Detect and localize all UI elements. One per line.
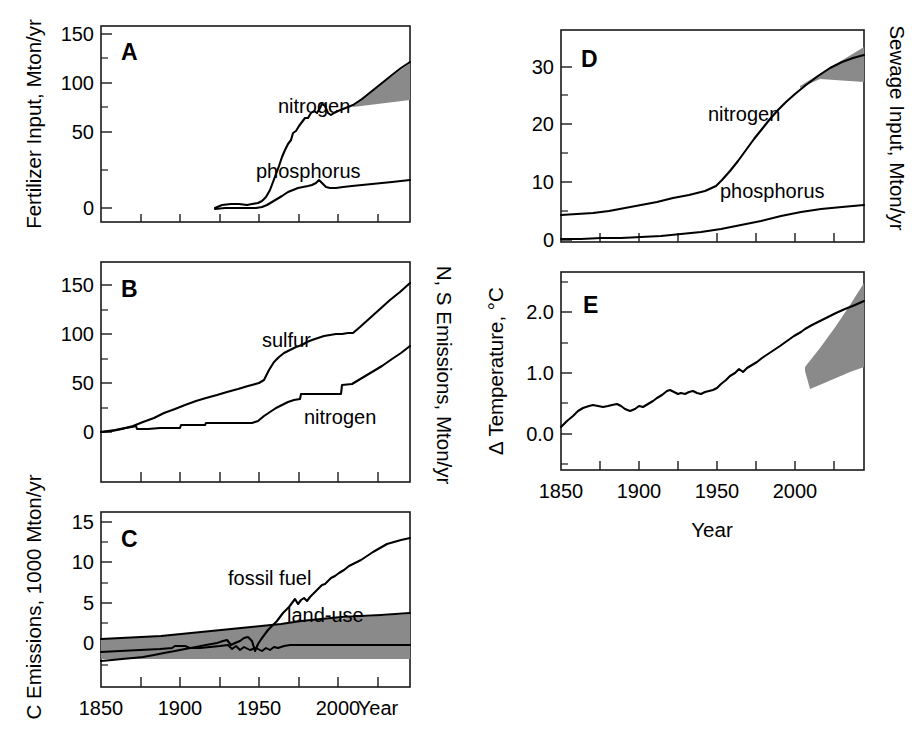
panel-c-ytick-10: 10: [72, 551, 94, 573]
panel-d-ytick-20: 20: [532, 113, 554, 135]
panel-a-xticks: [141, 214, 378, 222]
panel-d-label-phosphorus: phosphorus: [720, 180, 825, 202]
panel-a-ytick-0: 0: [83, 197, 94, 219]
panel-a-y-axis-title: Fertilizer Input, Mton/yr: [22, 19, 45, 229]
panel-e-letter: E: [583, 292, 598, 318]
panel-b: 150 100 50 0 N, S Emissions, Mton/yr B s…: [61, 262, 456, 485]
panel-e-xtick-2000: 2000: [773, 480, 818, 502]
panel-e-ytick-2: 2.0: [526, 301, 554, 323]
panel-a-ytick-150: 150: [61, 23, 94, 45]
multi-panel-figure: 150 100 50 0 Fertilizer Input, Mton/yr A…: [0, 0, 921, 742]
panel-c-xtick-1850: 1850: [79, 697, 124, 719]
panel-d-ytick-30: 30: [532, 56, 554, 78]
panel-c: 15 10 5 0 C Emissions, 1000 Mton/yr C 18…: [22, 474, 410, 719]
panel-c-xtick-1900: 1900: [158, 697, 203, 719]
panel-e-xtick-1850: 1850: [539, 480, 584, 502]
panel-c-ytick-0: 0: [83, 632, 94, 654]
figure-svg: 150 100 50 0 Fertilizer Input, Mton/yr A…: [0, 0, 921, 742]
panel-d-ytick-0: 0: [543, 229, 554, 251]
panel-e-xtick-1900: 1900: [617, 480, 662, 502]
panel-a-label-nitrogen: nitrogen: [278, 95, 350, 117]
panel-c-xtick-1950: 1950: [237, 697, 282, 719]
panel-a-nitrogen-curve: [215, 62, 410, 208]
panel-a-label-phosphorus: phosphorus: [256, 160, 361, 182]
panel-e-yticks: [561, 282, 572, 464]
panel-e-ytick-1: 1.0: [526, 362, 554, 384]
panel-e: 2.0 1.0 0.0 Δ Temperature, °C E 1850 190…: [484, 272, 864, 541]
panel-c-ytick-15: 15: [72, 511, 94, 533]
panel-e-y-axis-title: Δ Temperature, °C: [484, 287, 507, 455]
panel-a-ytick-50: 50: [72, 121, 94, 143]
panel-b-letter: B: [121, 276, 138, 302]
panel-c-frame: [101, 512, 410, 687]
panel-b-label-nitrogen: nitrogen: [304, 406, 376, 428]
panel-c-label-fossil-fuel: fossil fuel: [228, 567, 311, 589]
panel-b-xticks: [141, 472, 378, 482]
panel-d-label-nitrogen: nitrogen: [708, 103, 780, 125]
panel-a-ytick-100: 100: [61, 72, 94, 94]
panel-c-ytick-5: 5: [83, 592, 94, 614]
panel-e-x-axis-title: Year: [691, 518, 733, 541]
panel-b-y-axis-title: N, S Emissions, Mton/yr: [433, 266, 456, 485]
panel-d-ytick-10: 10: [532, 171, 554, 193]
panel-a-frame: [101, 26, 410, 222]
panel-b-label-sulfur: sulfur: [262, 329, 311, 351]
panel-b-ytick-0: 0: [83, 421, 94, 443]
panel-e-temperature-uncertainty-band: [805, 283, 864, 389]
panel-c-y-axis-title: C Emissions, 1000 Mton/yr: [22, 474, 45, 719]
panel-e-xtick-1950: 1950: [695, 480, 740, 502]
panel-a-yticks: [101, 34, 112, 208]
panel-c-xaxis-year-word: Year: [358, 697, 399, 719]
panel-c-xticks: [141, 677, 378, 687]
panel-b-ytick-150: 150: [61, 274, 94, 296]
panel-e-ytick-0: 0.0: [526, 423, 554, 445]
panel-b-yticks: [101, 285, 112, 432]
panel-c-letter: C: [121, 526, 138, 552]
panel-a-letter: A: [121, 39, 138, 65]
panel-d: 30 20 10 0 Sewage Input, Mton/yr D nitro…: [532, 25, 909, 251]
panel-d-letter: D: [581, 46, 598, 72]
panel-d-y-axis-title: Sewage Input, Mton/yr: [886, 25, 909, 230]
panel-c-label-land-use: land-use: [287, 604, 364, 626]
panel-d-phosphorus-curve: [561, 205, 864, 239]
panel-b-ytick-100: 100: [61, 323, 94, 345]
panel-e-xticks: [600, 461, 834, 470]
panel-c-xtick-2000: 2000: [316, 697, 361, 719]
panel-a: 150 100 50 0 Fertilizer Input, Mton/yr A…: [22, 19, 410, 229]
panel-b-frame: [101, 262, 410, 482]
panel-b-ytick-50: 50: [72, 372, 94, 394]
